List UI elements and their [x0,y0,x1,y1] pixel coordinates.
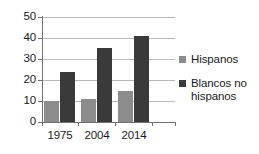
plot-area [42,17,175,122]
legend-item-blancos-no-hispanos: Blancos no hispanos [179,77,259,103]
x-axis-line [42,122,176,123]
legend-label-blancos-no-hispanos: Blancos no hispanos [191,77,247,103]
x-axis-label-2004: 2004 [79,129,115,142]
x-tick-mark-0 [42,122,43,126]
bar-hispanos-2014 [118,91,133,122]
x-tick-mark-3 [152,122,153,126]
y-axis-line [42,16,43,123]
y-tick-label-20: 20 [2,74,36,86]
legend-item-hispanos: Hispanos [179,53,259,66]
bar-blancos-2014 [134,36,149,122]
legend-label-hispanos: Hispanos [191,53,238,66]
y-tick-label-30: 30 [2,53,36,65]
gridline-50 [42,17,175,18]
bar-hispanos-2004 [81,99,96,122]
bar-blancos-1975 [60,72,75,122]
y-tick-label-40: 40 [2,32,36,44]
y-tick-label-50: 50 [2,11,36,23]
bar-chart: 50 40 30 20 10 0 1975 2004 2014 Hispanos… [0,0,259,154]
legend-swatch-icon-blancos [179,80,186,87]
y-tick-mark-50 [38,17,42,18]
y-tick-mark-30 [38,59,42,60]
x-tick-mark-1 [78,122,79,126]
bar-blancos-2004 [97,48,112,122]
x-tick-mark-4 [175,122,176,126]
y-tick-mark-40 [38,38,42,39]
y-tick-label-0: 0 [2,116,36,128]
gridline-40 [42,38,175,39]
legend-swatch-icon-hispanos [179,56,186,63]
x-axis-label-1975: 1975 [42,129,78,142]
x-tick-mark-2 [115,122,116,126]
x-axis-label-2014: 2014 [116,129,152,142]
bar-hispanos-1975 [44,101,59,122]
chart-legend: Hispanos Blancos no hispanos [179,53,259,114]
y-tick-label-10: 10 [2,95,36,107]
y-tick-mark-20 [38,80,42,81]
y-tick-mark-10 [38,101,42,102]
